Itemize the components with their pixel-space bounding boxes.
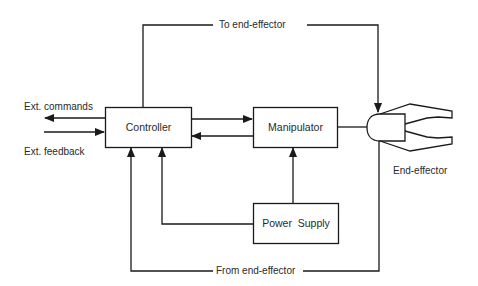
power-supply-label: Power Supply [253, 203, 339, 243]
ext-feedback-label: Ext. feedback [24, 146, 85, 158]
power-to-controller-arrow [162, 148, 253, 224]
gripper-icon [367, 104, 452, 151]
from-end-effector-arrow [131, 148, 213, 271]
to-end-effector-label: To end-effector [219, 19, 286, 31]
from-end-effector-label: From end-effector [216, 265, 295, 277]
to-end-effector-arrow [307, 25, 378, 112]
manipulator-label: Manipulator [253, 107, 338, 147]
controller-label: Controller [105, 107, 192, 147]
block-diagram [0, 0, 478, 286]
ext-commands-label: Ext. commands [24, 101, 93, 113]
end-effector-label: End-effector [393, 165, 447, 177]
to-end-effector-line-left [143, 25, 213, 107]
